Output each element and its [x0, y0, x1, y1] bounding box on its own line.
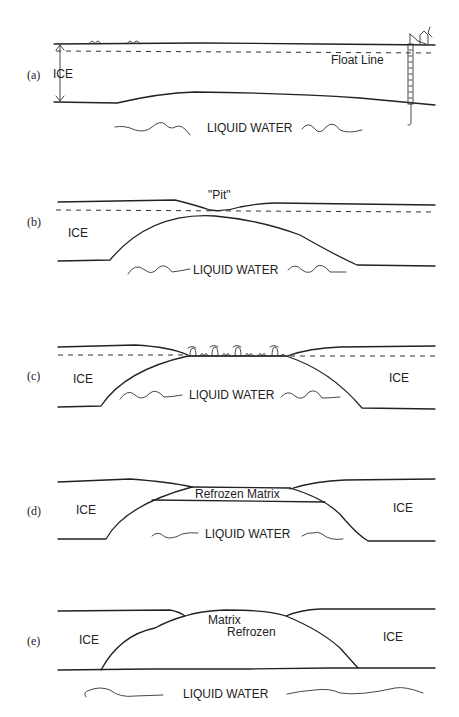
- water-wave-right: [287, 688, 423, 694]
- water-wave-left: [120, 391, 182, 399]
- slush-texture-icon: [188, 346, 286, 357]
- water-wave-left: [152, 533, 198, 538]
- ice-refreezing-diagram: (a) Float Line ICE LIQUID WATER (b) "Pit…: [0, 0, 459, 717]
- ice-top-surface: [58, 200, 435, 211]
- matrix-label-line2: Refrozen: [227, 625, 276, 639]
- ice-fishing-hut-icon: [408, 27, 432, 125]
- ice-top-surface-right: [290, 479, 435, 489]
- ice-top-surface-left: [58, 479, 192, 487]
- panel-c-tag: (c): [27, 369, 40, 383]
- water-wave-left: [85, 688, 163, 697]
- water-wave-right: [288, 265, 346, 272]
- panel-d: (d) Refrozen Matrix ICE ICE LIQUID WATER: [27, 479, 435, 541]
- water-label: LIQUID WATER: [189, 388, 275, 402]
- water-wave-right: [281, 391, 340, 398]
- ice-label-left: ICE: [79, 633, 99, 647]
- panel-d-tag: (d): [27, 504, 41, 518]
- panel-b-tag: (b): [27, 215, 41, 229]
- panel-e: (e) Matrix Refrozen ICE ICE LIQUID WATER: [27, 609, 435, 701]
- water-label: LIQUID WATER: [205, 527, 291, 541]
- water-label: LIQUID WATER: [193, 263, 279, 277]
- panel-a-tag: (a): [27, 68, 40, 82]
- water-wave-left: [115, 123, 190, 135]
- ice-bottom-dome: [58, 216, 435, 266]
- ice-bottom-surface: [58, 668, 435, 670]
- ice-label-right: ICE: [383, 630, 403, 644]
- panel-b: (b) "Pit" ICE LIQUID WATER: [27, 188, 435, 277]
- ice-label: ICE: [68, 226, 88, 240]
- panel-e-tag: (e): [27, 634, 40, 648]
- matrix-label: Refrozen Matrix: [195, 487, 280, 501]
- panel-c: (c) ICE ICE LIQUID WATER: [27, 345, 435, 409]
- water-wave-right: [302, 532, 343, 539]
- float-line: [56, 210, 435, 212]
- ice-label-right: ICE: [393, 501, 413, 515]
- pit-label: "Pit": [208, 188, 231, 202]
- water-wave-right: [302, 124, 362, 132]
- ice-label-left: ICE: [76, 503, 96, 517]
- ice-top-surface: [54, 43, 435, 45]
- ice-label-left: ICE: [73, 372, 93, 386]
- ice-label: ICE: [53, 67, 73, 81]
- ice-top-surface-left: [58, 610, 185, 616]
- water-label: LIQUID WATER: [207, 121, 293, 135]
- float-line-label: Float Line: [331, 53, 384, 67]
- ice-top-surface-left: [58, 345, 188, 355]
- panel-a: (a) Float Line ICE LIQUID WATER: [27, 27, 435, 135]
- ice-top-surface-right: [286, 609, 435, 616]
- water-label: LIQUID WATER: [183, 687, 269, 701]
- ice-label-right: ICE: [389, 371, 409, 385]
- ice-top-surface-right: [287, 346, 435, 356]
- water-wave-left: [128, 266, 190, 274]
- ice-bottom-surface: [54, 92, 435, 105]
